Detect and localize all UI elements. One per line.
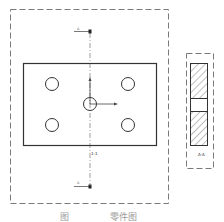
hole-bottom-right <box>122 119 135 132</box>
section-label-top: A <box>77 27 80 31</box>
side-section-label: A-A <box>198 152 205 157</box>
side-section-body <box>191 64 208 146</box>
section-label-bottom: A <box>77 181 80 185</box>
hole-top-left <box>46 78 59 91</box>
coordinate-axes-icon <box>89 77 119 106</box>
hole-top-right <box>122 78 135 91</box>
section-marker-bottom <box>74 185 92 189</box>
front-view-frame <box>11 10 169 204</box>
hole-bottom-left <box>46 119 59 132</box>
drawing-canvas: A A 1:1 A-A <box>0 0 224 222</box>
caption-figure-number: 图 <box>60 210 69 222</box>
figure-caption: 图 零件图 <box>0 210 224 222</box>
caption-title: 零件图 <box>110 210 137 222</box>
center-scale-label: 1:1 <box>91 151 98 156</box>
